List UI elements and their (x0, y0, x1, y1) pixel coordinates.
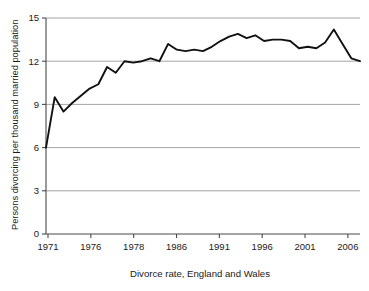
x-tick-label: 1986 (166, 241, 187, 252)
y-tick-label: 0 (34, 228, 39, 239)
y-tick-label: 12 (28, 56, 39, 67)
y-tick-label: 6 (34, 142, 39, 153)
chart-figure: 03691215 1971197619781986199119962001200… (0, 0, 369, 291)
x-axis-title: Divorce rate, England and Wales (130, 268, 270, 279)
x-tick-label: 2006 (337, 241, 358, 252)
x-tick-label: 1978 (123, 241, 144, 252)
x-tick-label: 1976 (80, 241, 101, 252)
x-tick-label: 1971 (37, 241, 58, 252)
y-tick-label: 15 (28, 12, 39, 23)
x-tick-label: 2001 (294, 241, 315, 252)
y-axis-title: Persons divorcing per thousand married p… (10, 20, 20, 230)
x-tick-label: 1996 (252, 241, 273, 252)
x-tick-label: 1991 (209, 241, 230, 252)
y-tick-label: 3 (34, 185, 39, 196)
y-tick-label: 9 (34, 99, 39, 110)
divorce-rate-line-chart: 03691215 1971197619781986199119962001200… (0, 0, 369, 291)
